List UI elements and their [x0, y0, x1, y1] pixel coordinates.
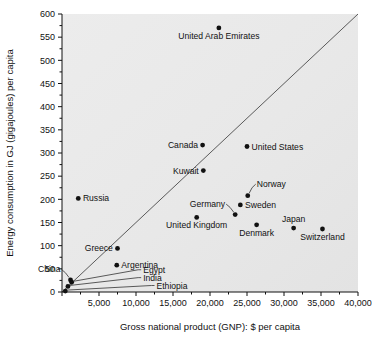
x-tick-label: 25,000 — [233, 298, 261, 308]
y-tick-label: 200 — [40, 195, 55, 205]
x-tick-label: 5,000 — [88, 298, 111, 308]
data-point-marker — [115, 246, 120, 251]
data-point-label: Norway — [257, 179, 287, 189]
y-tick-label: 350 — [40, 125, 55, 135]
x-axis-title: Gross national product (GNP): $ per capi… — [120, 321, 301, 332]
data-point-label: Germany — [190, 199, 226, 209]
data-point-marker — [69, 280, 74, 285]
data-point-marker — [320, 227, 325, 232]
energy-gnp-scatter-figure: 5,00010,00015,00020,00025,00030,00035,00… — [0, 0, 385, 340]
y-tick-label: 0 — [50, 287, 55, 297]
data-point-marker — [114, 263, 119, 268]
x-tick-label: 40,000 — [344, 298, 372, 308]
data-point-label: Switzerland — [300, 232, 345, 242]
data-point-marker — [66, 284, 71, 289]
x-axis-tick-labels: 5,00010,00015,00020,00025,00030,00035,00… — [88, 298, 372, 308]
data-point-marker — [245, 193, 250, 198]
x-tick-label: 30,000 — [270, 298, 298, 308]
y-tick-label: 550 — [40, 32, 55, 42]
data-point-marker — [200, 143, 205, 148]
x-tick-label: 20,000 — [196, 298, 224, 308]
data-point-marker — [201, 168, 206, 173]
data-point-label: Ethiopia — [157, 281, 188, 291]
data-point-label: Sweden — [245, 200, 276, 210]
data-point-marker — [238, 202, 243, 207]
data-point-marker — [254, 222, 259, 227]
x-axis-ticks — [62, 292, 358, 296]
data-point-label: United States — [252, 142, 304, 152]
data-point-label: Russia — [83, 193, 109, 203]
data-point-label: Japan — [282, 214, 306, 224]
y-tick-label: 600 — [40, 9, 55, 19]
data-point-label: United Arab Emirates — [178, 31, 259, 41]
scatter-plot-svg: 5,00010,00015,00020,00025,00030,00035,00… — [0, 0, 385, 340]
y-tick-label: 150 — [40, 218, 55, 228]
data-point-marker — [76, 196, 81, 201]
y-tick-label: 100 — [40, 241, 55, 251]
data-point-marker — [63, 289, 68, 294]
x-tick-label: 35,000 — [307, 298, 335, 308]
data-point-marker — [233, 212, 238, 217]
data-point-label: Kuwait — [173, 166, 199, 176]
y-tick-label: 500 — [40, 56, 55, 66]
data-point-label: Greece — [85, 243, 113, 253]
data-point-marker — [194, 215, 199, 220]
data-point-marker — [216, 26, 221, 31]
y-tick-label: 400 — [40, 102, 55, 112]
data-point-label: Canada — [168, 140, 198, 150]
data-point-label: Denmark — [239, 228, 275, 238]
y-tick-label: 250 — [40, 171, 55, 181]
data-point-label: United Kingdom — [166, 220, 227, 230]
x-tick-label: 10,000 — [122, 298, 150, 308]
y-axis-tick-labels: 050100150200250300350400450500550600 — [40, 9, 55, 297]
data-point-marker — [245, 144, 250, 149]
data-point-marker — [291, 226, 296, 231]
y-tick-label: 300 — [40, 148, 55, 158]
data-point-label: China — [38, 264, 61, 274]
y-axis-ticks — [58, 14, 62, 292]
x-tick-label: 15,000 — [159, 298, 187, 308]
y-axis-title: Energy consumption in GJ (gigajoules) pe… — [4, 49, 15, 257]
y-tick-label: 450 — [40, 79, 55, 89]
